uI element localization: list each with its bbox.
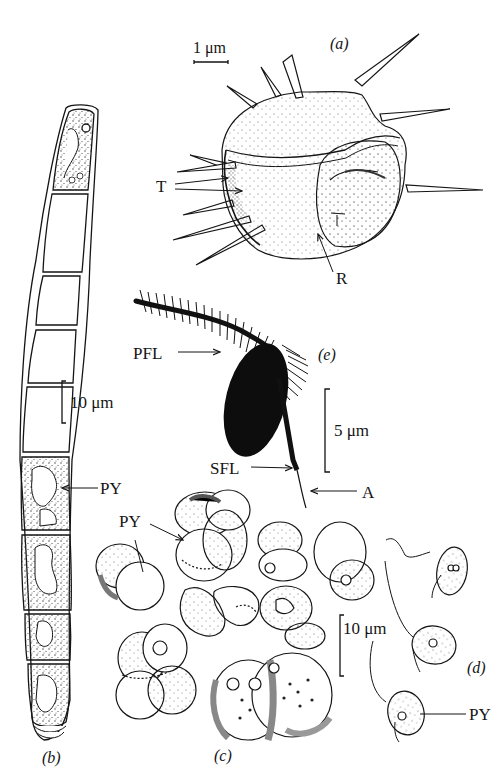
annotation-PY-c: PY <box>119 513 141 530</box>
panel-label-c: (c) <box>214 748 232 764</box>
panel-a-cyst-illustration <box>173 34 483 265</box>
annotation-PFL: PFL <box>133 345 162 362</box>
scale-bar-a <box>194 60 228 64</box>
figure-canvas <box>0 0 503 778</box>
scale-label-e: 5 μm <box>334 422 369 439</box>
scale-label-b: 10 μm <box>70 394 114 411</box>
panel-d-zoospores-illustration <box>370 539 471 742</box>
panel-label-b: (b) <box>42 750 61 766</box>
panel-b-filament-illustration <box>20 105 98 740</box>
panel-label-a: (a) <box>330 36 349 52</box>
scale-label-d: 10 μm <box>343 620 387 637</box>
panel-label-d: (d) <box>467 660 486 676</box>
annotation-PY-b: PY <box>100 480 122 497</box>
label-PY-c-arrow <box>150 524 183 540</box>
label-SFL-arrow <box>251 467 292 468</box>
annotation-A: A <box>362 484 374 501</box>
annotation-R: R <box>336 270 347 287</box>
scale-label-a: 1 μm <box>193 40 226 56</box>
annotation-PY-d: PY <box>469 706 491 723</box>
panel-label-e: (e) <box>318 347 336 363</box>
scale-bar-e <box>325 389 330 472</box>
annotation-SFL: SFL <box>210 460 239 477</box>
annotation-T: T <box>156 178 166 195</box>
